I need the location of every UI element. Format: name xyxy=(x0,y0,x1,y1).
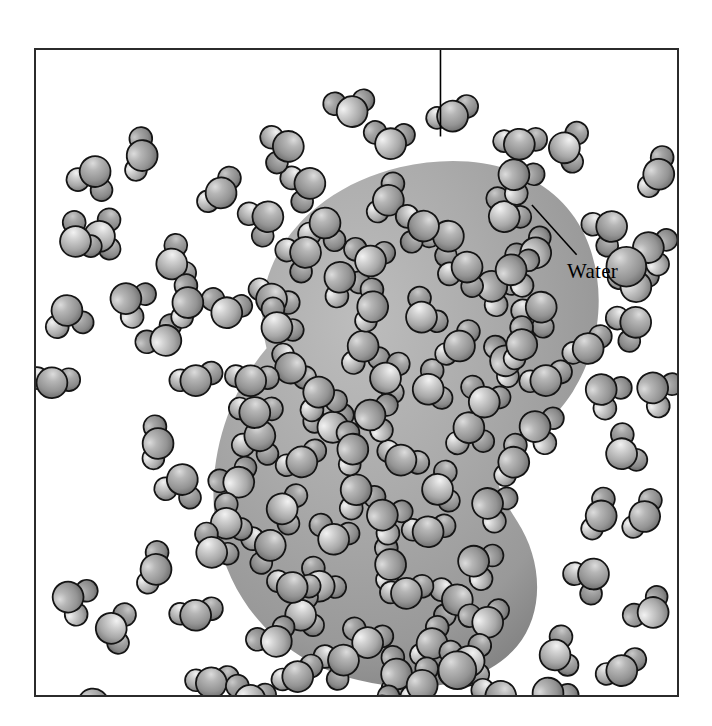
protein-blob xyxy=(213,161,598,687)
water-molecules-inside xyxy=(201,155,576,695)
illustration-frame: Protein Water xyxy=(34,48,679,697)
water-molecules-outside xyxy=(36,73,677,695)
figure-root: Protein Water xyxy=(0,0,712,726)
lone-water-sphere xyxy=(438,651,476,689)
water-label: Water xyxy=(567,259,618,284)
water-leader-line xyxy=(532,205,577,255)
illustration-canvas xyxy=(36,50,677,695)
leader-lines xyxy=(440,50,576,255)
